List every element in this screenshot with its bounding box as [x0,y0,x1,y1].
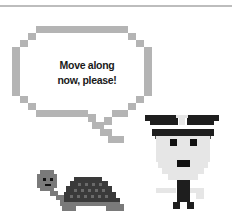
speech-line-2: now, please! [46,73,128,88]
turtle-character [37,170,124,211]
pixel-art-scene [0,0,232,224]
speech-line-1: Move along [46,58,128,73]
speech-bubble-text: Move along now, please! [46,58,128,88]
officer-character [145,115,219,209]
